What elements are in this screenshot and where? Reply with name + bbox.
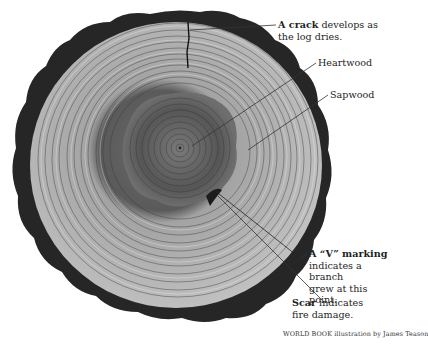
label-scar-text: indicates <box>316 297 363 308</box>
label-scar-line2: fire damage. <box>292 309 353 320</box>
label-heartwood: Heartwood <box>318 57 372 69</box>
label-crack: A crack develops as the log dries. <box>278 19 378 42</box>
label-crack-text: develops as <box>318 19 378 30</box>
credit-text: illustration by James Teason <box>332 330 428 338</box>
label-crack-line2: the log dries. <box>278 31 342 42</box>
illustration-credit: World Book illustration by James Teason <box>283 330 428 338</box>
label-v-marking-bold: A “V” marking <box>309 248 387 259</box>
label-scar-bold: Scar <box>292 297 316 308</box>
pith <box>179 147 182 150</box>
label-scar: Scar indicates fire damage. <box>292 297 363 320</box>
label-sapwood: Sapwood <box>330 89 374 101</box>
credit-brand: World Book <box>283 330 332 338</box>
label-v-marking-line2: indicates a branch <box>309 260 362 283</box>
label-crack-bold: A crack <box>278 19 318 30</box>
